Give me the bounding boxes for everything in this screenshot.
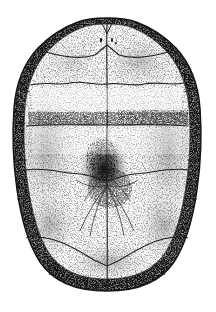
illustration-canvas: turtle-plastron ventral (0, 0, 216, 312)
turtle-plastron-illustration (0, 0, 216, 312)
median-seam (107, 23, 108, 290)
